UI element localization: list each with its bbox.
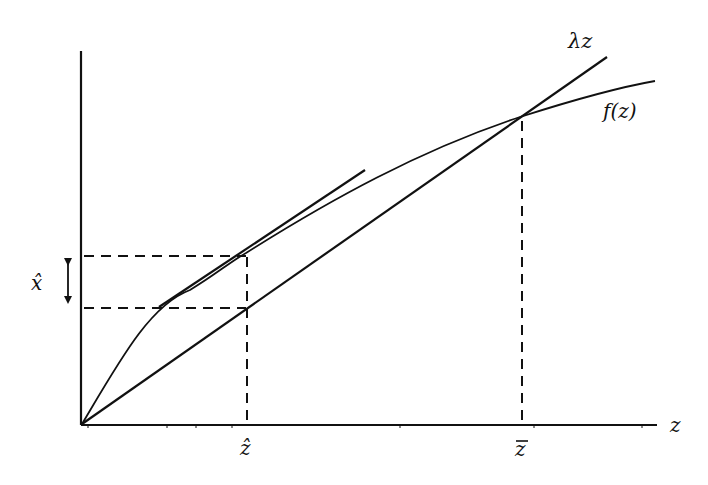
lambda-z-line: [82, 57, 607, 424]
z-axis-label: z: [669, 413, 681, 437]
z-bar-label: z: [514, 437, 526, 461]
x-hat-label: x̂: [31, 271, 42, 295]
tangent-line: [159, 170, 365, 307]
f-z-curve: [82, 81, 655, 424]
z-hat-label: ẑ: [239, 436, 251, 460]
dashed-guides: [84, 121, 522, 424]
f-z-label: f(z): [601, 99, 637, 123]
z-bar-label-group: z: [514, 437, 528, 461]
diagram-canvas: λz f(z) z ẑ z x̂: [0, 0, 708, 485]
lambda-z-label: λz: [567, 29, 593, 53]
